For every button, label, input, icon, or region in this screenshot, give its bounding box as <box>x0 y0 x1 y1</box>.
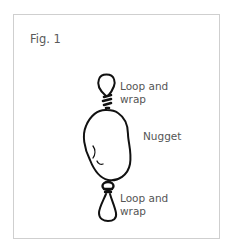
label-top-loop: Loop and wrap <box>120 80 168 106</box>
top-wrap-icon <box>103 95 111 108</box>
label-bottom-loop: Loop and wrap <box>120 192 168 218</box>
top-loop-icon <box>98 75 114 97</box>
label-nugget: Nugget <box>143 130 181 143</box>
nugget-illustration <box>0 0 234 252</box>
bottom-loop-icon <box>99 194 116 221</box>
nugget-icon <box>84 110 131 180</box>
